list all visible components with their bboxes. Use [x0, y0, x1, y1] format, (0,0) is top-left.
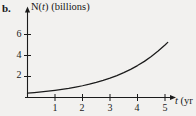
chart-canvas: [0, 0, 196, 116]
figure-panel: b. N(t) (billions) t (yr 6 4 2 1 2 3 4 5: [0, 0, 196, 116]
x-axis: [25, 95, 176, 100]
y-axis: [25, 7, 30, 99]
y-axis-arrowhead: [25, 7, 30, 13]
exponential-growth-curve: [28, 42, 168, 93]
x-axis-arrowhead: [170, 95, 176, 100]
